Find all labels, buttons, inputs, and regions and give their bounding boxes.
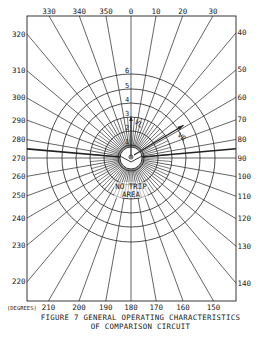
angle-label-350: 350 (99, 7, 113, 16)
ring-label-1: 1 (125, 138, 129, 146)
radial-line-310 (27, 71, 123, 151)
angle-label-340: 340 (73, 7, 87, 16)
angle-label-140: 140 (238, 279, 252, 288)
angle-label-60: 60 (238, 93, 248, 102)
angle-label-170: 170 (149, 303, 163, 312)
radial-line-230 (27, 165, 123, 245)
angle-label-120: 120 (238, 214, 252, 223)
angle-label-30: 30 (208, 7, 218, 16)
ring-label-3: 3 (125, 110, 129, 118)
radial-line-150 (137, 168, 214, 301)
inner-radial-265 (90, 159, 120, 162)
angle-label-220: 220 (12, 277, 26, 286)
operating-characteristics-diagram: 3303403500102030405060708090100110120130… (0, 0, 261, 342)
angle-label-160: 160 (176, 303, 190, 312)
heavy-line-275 (27, 149, 120, 157)
angle-label-50: 50 (238, 65, 248, 74)
angle-label-80: 80 (238, 135, 248, 144)
ring-label-2: 2 (125, 124, 129, 132)
figure-caption-line2: OF COMPARISON CIRCUIT (10, 322, 261, 331)
angle-label-180: 180 (124, 303, 138, 312)
radial-line-330 (49, 16, 125, 148)
angle-label-100: 100 (238, 172, 252, 181)
radial-line-210 (48, 168, 125, 301)
ring-label-4: 4 (125, 96, 129, 104)
heavy-line-85 (142, 149, 236, 157)
figure-caption-line1: FIGURE 7 GENERAL OPERATING CHARACTERISTI… (10, 313, 261, 322)
angle-label-130: 130 (238, 242, 252, 251)
radial-line-50 (139, 70, 236, 151)
ring-label-6: 6 (125, 67, 129, 75)
angle-label-40: 40 (238, 28, 248, 37)
radial-line-220 (27, 166, 124, 282)
angle-label-10: 10 (152, 7, 162, 16)
angle-label-280: 280 (12, 135, 26, 144)
radial-line-130 (139, 165, 236, 246)
angle-label-70: 70 (238, 115, 248, 124)
angle-label-310: 310 (12, 66, 26, 75)
angle-label-0: 0 (129, 7, 134, 16)
angle-label-250: 250 (12, 191, 26, 200)
angle-label-320: 320 (12, 30, 26, 39)
angle-label-330: 330 (42, 7, 56, 16)
radial-line-140 (138, 166, 236, 283)
ring-label-5: 5 (125, 82, 129, 90)
angle-label-300: 300 (12, 93, 26, 102)
angle-label-150: 150 (207, 303, 221, 312)
radial-line-30 (137, 16, 213, 148)
angle-label-200: 200 (72, 303, 86, 312)
angle-label-230: 230 (12, 241, 26, 250)
angle-label-260: 260 (12, 172, 26, 181)
angle-label-90: 90 (238, 154, 248, 163)
radial-line-320 (27, 34, 124, 150)
angle-label-240: 240 (12, 214, 26, 223)
angle-label-290: 290 (12, 116, 26, 125)
radial-line-40 (138, 33, 236, 150)
angle-label-190: 190 (99, 303, 113, 312)
no-trip-area-label: AREA (122, 190, 141, 199)
angle-label-270: 270 (12, 154, 26, 163)
angle-label-110: 110 (238, 192, 252, 201)
angle-label-210: 210 (42, 303, 56, 312)
angle-label-20: 20 (178, 7, 188, 16)
inner-radial-95 (142, 159, 172, 162)
vr-label: VR (176, 131, 188, 143)
units-label: (DEGREES) (7, 305, 37, 311)
